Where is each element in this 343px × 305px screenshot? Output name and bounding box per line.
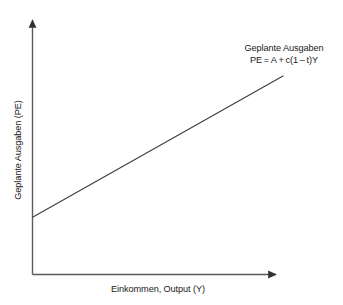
- curve-annotation-formula: PE = A + c(1 – t)Y: [226, 54, 342, 66]
- x-axis-label: Einkommen, Output (Y): [38, 283, 278, 295]
- planned-expenditure-chart: Geplante Ausgaben (PE) Einkommen, Output…: [0, 0, 343, 305]
- planned-expenditure-line: [33, 76, 283, 217]
- curve-annotation-title: Geplante Ausgaben: [226, 42, 342, 54]
- y-axis-label: Geplante Ausgaben (PE): [12, 60, 24, 240]
- curve-annotation: Geplante Ausgaben PE = A + c(1 – t)Y: [226, 42, 342, 67]
